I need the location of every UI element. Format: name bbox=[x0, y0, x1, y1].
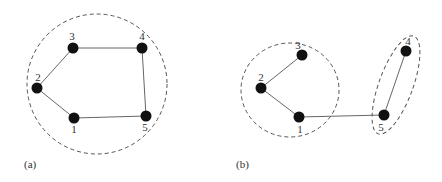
panel-b: 12345(b) bbox=[236, 30, 430, 171]
cluster-boundary bbox=[362, 30, 430, 139]
panel-label: (a) bbox=[24, 158, 37, 171]
graph-diagram: 12345(a)12345(b) bbox=[0, 0, 442, 182]
edge-2-1 bbox=[261, 88, 299, 117]
node-4 bbox=[401, 46, 412, 57]
node-label: 5 bbox=[378, 121, 384, 133]
node-label: 1 bbox=[71, 123, 77, 135]
edge-2-1 bbox=[37, 88, 74, 118]
cluster-boundary bbox=[27, 14, 167, 154]
node-label: 4 bbox=[405, 35, 411, 47]
edge-3-2 bbox=[261, 55, 302, 88]
node-2 bbox=[256, 83, 267, 94]
node-3 bbox=[68, 43, 79, 54]
node-label: 1 bbox=[297, 123, 303, 135]
node-label: 4 bbox=[139, 30, 145, 42]
edge-5-4 bbox=[384, 51, 406, 115]
edge-4-5 bbox=[142, 48, 146, 116]
node-label: 3 bbox=[295, 39, 301, 51]
node-1 bbox=[69, 113, 80, 124]
node-4 bbox=[137, 43, 148, 54]
panel-a: 12345(a) bbox=[24, 14, 167, 171]
node-5 bbox=[379, 110, 390, 121]
node-label: 2 bbox=[35, 71, 41, 83]
node-2 bbox=[32, 83, 43, 94]
cluster-boundary bbox=[241, 43, 339, 137]
node-label: 5 bbox=[142, 121, 148, 133]
node-3 bbox=[297, 50, 308, 61]
node-label: 3 bbox=[69, 30, 75, 42]
panel-label: (b) bbox=[236, 158, 249, 171]
edge-1-5 bbox=[74, 116, 146, 118]
edge-3-2 bbox=[37, 48, 73, 88]
node-1 bbox=[294, 112, 305, 123]
edge-1-5 bbox=[299, 115, 384, 117]
node-label: 2 bbox=[258, 71, 264, 83]
node-5 bbox=[141, 111, 152, 122]
